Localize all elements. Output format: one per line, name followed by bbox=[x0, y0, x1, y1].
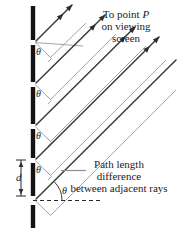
right-angle-marker bbox=[47, 172, 51, 180]
diffraction-grating-figure: .bar { fill: #141414; } .ray { stroke: #… bbox=[0, 0, 180, 231]
theta-label-1: θ bbox=[36, 47, 41, 58]
theta-label-2: θ bbox=[36, 89, 41, 100]
wavefront-guide bbox=[51, 90, 177, 216]
grating-bar bbox=[31, 6, 35, 40]
grating-bar bbox=[31, 163, 35, 196]
ray bbox=[36, 5, 73, 42]
label-to-point-p: To point P on viewing screen bbox=[78, 9, 174, 45]
right-angle-marker bbox=[47, 54, 51, 62]
point-p-symbol: P bbox=[142, 8, 149, 20]
ray bbox=[36, 37, 160, 160]
path-difference-segment bbox=[35, 201, 50, 216]
path-line1: Path length bbox=[94, 158, 144, 170]
grating-bar bbox=[31, 45, 35, 82]
to-point-line3: screen bbox=[112, 32, 140, 44]
grating-bar bbox=[31, 129, 35, 158]
path-line2: difference bbox=[97, 170, 141, 182]
to-point-line2: on viewing bbox=[101, 20, 150, 32]
theta-label-bottom: θ bbox=[62, 186, 67, 197]
grating-bar bbox=[31, 205, 35, 228]
theta-label-3: θ bbox=[36, 131, 41, 142]
theta-label-4: θ bbox=[36, 165, 41, 176]
spacing-label-d: d bbox=[16, 172, 22, 184]
right-angle-marker bbox=[47, 96, 51, 104]
label-path-difference: Path length difference between adjacent … bbox=[58, 159, 180, 195]
to-point-line1: To point bbox=[103, 8, 140, 20]
path-line3: between adjacent rays bbox=[70, 182, 167, 194]
grating-bar bbox=[31, 87, 35, 124]
grating-bars bbox=[31, 6, 35, 228]
right-angle-markers bbox=[47, 54, 51, 180]
